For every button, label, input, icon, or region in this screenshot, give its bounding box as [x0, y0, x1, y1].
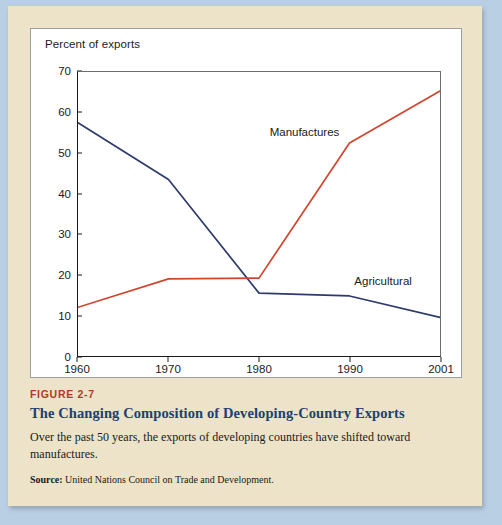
x-tick-mark: [259, 357, 260, 362]
figure-card: Percent of exports 010203040506070 19601…: [8, 6, 482, 506]
chart-panel: Percent of exports 010203040506070 19601…: [30, 28, 462, 378]
y-tick-label: 0: [65, 351, 71, 363]
plot-frame: [77, 71, 441, 357]
figure-source: Source: United Nations Council on Trade …: [30, 474, 460, 485]
series-label-agricultural: Agricultural: [354, 275, 412, 287]
x-tick-label: 1990: [337, 363, 363, 375]
figure-description: Over the past 50 years, the exports of d…: [30, 429, 460, 463]
y-tick-label: 40: [58, 188, 71, 200]
figure-source-text: United Nations Council on Trade and Deve…: [65, 474, 274, 485]
plot-lines: [78, 72, 440, 356]
y-tick-label: 70: [58, 65, 71, 77]
series-line-agricultural: [78, 123, 440, 318]
y-axis-title: Percent of exports: [45, 38, 140, 50]
figure-title: The Changing Composition of Developing-C…: [30, 405, 460, 422]
x-tick-label: 1980: [246, 363, 272, 375]
y-tick-label: 60: [58, 106, 71, 118]
x-tick-label: 1960: [64, 363, 90, 375]
x-tick-mark: [350, 357, 351, 362]
x-axis-tick-labels: 19601970198019902001: [77, 361, 441, 379]
figure-number: FIGURE 2-7: [30, 388, 460, 400]
y-tick-label: 10: [58, 310, 71, 322]
y-axis-tick-labels: 010203040506070: [39, 71, 71, 357]
y-tick-label: 20: [58, 269, 71, 281]
x-tick-label: 2001: [428, 363, 454, 375]
y-tick-label: 30: [58, 228, 71, 240]
x-tick-mark: [168, 357, 169, 362]
figure-caption: FIGURE 2-7 The Changing Composition of D…: [30, 388, 460, 485]
x-tick-mark: [441, 357, 442, 362]
series-label-manufactures: Manufactures: [270, 126, 340, 138]
x-tick-label: 1970: [155, 363, 181, 375]
y-tick-label: 50: [58, 147, 71, 159]
x-tick-mark: [77, 357, 78, 362]
figure-source-label: Source:: [30, 474, 63, 485]
